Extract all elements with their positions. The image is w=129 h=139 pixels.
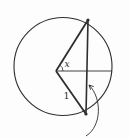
pointer-arrow-curve	[86, 85, 98, 136]
geometry-figure: x 1	[0, 0, 129, 139]
chord-bottom-dot	[84, 112, 87, 115]
chord-top-dot	[86, 18, 89, 21]
angle-label: x	[65, 59, 70, 69]
figure-canvas: x 1	[0, 0, 129, 139]
lower-side-line	[56, 71, 86, 114]
side-label: 1	[64, 90, 70, 101]
upper-side-line	[56, 20, 88, 71]
chord-line	[86, 20, 88, 114]
